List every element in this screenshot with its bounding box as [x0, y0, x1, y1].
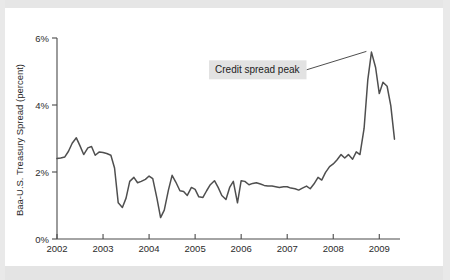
x-axis-tick-label: 2008 [323, 243, 344, 254]
y-axis-tick-label: 4% [35, 100, 49, 111]
annotation-leader-line [307, 51, 367, 69]
y-axis-ticks [52, 38, 57, 239]
x-axis-tick-labels: 20022003200420052006200720082009 [46, 243, 389, 254]
x-axis-ticks [57, 234, 379, 239]
x-axis-tick-label: 2003 [92, 243, 113, 254]
y-axis-tick-label: 2% [35, 167, 49, 178]
y-axis-tick-label: 6% [35, 33, 49, 44]
y-axis-tick-labels: 0%2%4%6% [35, 33, 49, 245]
annotation-credit-spread-peak: Credit spread peak [209, 51, 366, 79]
annotation-label: Credit spread peak [215, 64, 300, 75]
x-axis-tick-label: 2006 [231, 243, 252, 254]
x-axis-tick-label: 2004 [139, 243, 160, 254]
credit-spread-line-chart: 0%2%4%6% 2002200320042005200620072008200… [0, 0, 450, 280]
x-axis-tick-label: 2007 [277, 243, 298, 254]
x-axis-tick-label: 2002 [46, 243, 67, 254]
y-axis-title: Baa-U.S. Treasury Spread (percent) [14, 64, 25, 216]
x-axis-tick-label: 2009 [369, 243, 390, 254]
x-axis-tick-label: 2005 [185, 243, 206, 254]
